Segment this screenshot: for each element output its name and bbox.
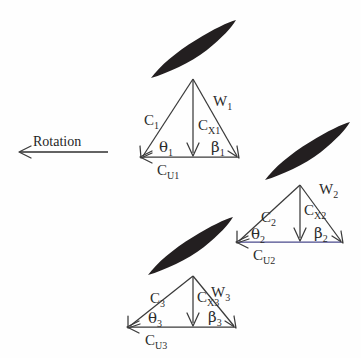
svg-text:C3: C3 bbox=[150, 290, 165, 309]
svg-text:β3: β3 bbox=[208, 308, 222, 328]
svg-text:CU3: CU3 bbox=[145, 332, 167, 351]
svg-text:β2: β2 bbox=[314, 224, 328, 244]
svg-text:β1: β1 bbox=[211, 138, 225, 158]
svg-text:C2: C2 bbox=[261, 209, 276, 228]
label-CU2: CU2 bbox=[253, 247, 275, 266]
velocity-triangle-2: C2 W2 CX2 CU2 θ2 β2 bbox=[236, 181, 343, 266]
label-W1: W1 bbox=[213, 93, 232, 112]
label-C2: C2 bbox=[261, 209, 276, 228]
svg-text:θ3: θ3 bbox=[148, 309, 162, 329]
svg-text:W1: W1 bbox=[213, 93, 232, 112]
label-theta2: θ2 bbox=[251, 225, 265, 245]
svg-text:θ1: θ1 bbox=[159, 138, 173, 158]
svg-text:CU1: CU1 bbox=[157, 162, 179, 181]
blade-right bbox=[265, 122, 350, 180]
rotation-label: Rotation bbox=[33, 134, 81, 149]
label-CU1: CU1 bbox=[157, 162, 179, 181]
rotation-indicator: Rotation bbox=[19, 134, 108, 158]
label-W2: W2 bbox=[319, 181, 338, 200]
label-beta2: β2 bbox=[314, 224, 328, 244]
label-C1: C1 bbox=[144, 112, 159, 131]
svg-text:W2: W2 bbox=[319, 181, 338, 200]
label-theta3: θ3 bbox=[148, 309, 162, 329]
label-beta1: β1 bbox=[211, 138, 225, 158]
svg-text:CU2: CU2 bbox=[253, 247, 275, 266]
velocity-triangle-3: C3 W3 CX3 CU3 θ3 β3 bbox=[127, 276, 236, 351]
blade-upper bbox=[151, 20, 236, 78]
svg-text:C1: C1 bbox=[144, 112, 159, 131]
label-CU3: CU3 bbox=[145, 332, 167, 351]
velocity-triangle-1: C1 W1 CX1 CU1 θ1 β1 bbox=[140, 79, 239, 181]
label-C3: C3 bbox=[150, 290, 165, 309]
label-theta1: θ1 bbox=[159, 138, 173, 158]
svg-text:θ2: θ2 bbox=[251, 225, 265, 245]
blade-lower bbox=[148, 217, 233, 275]
label-beta3: β3 bbox=[208, 308, 222, 328]
velocity-triangle-diagram: Rotation C1 W1 CX1 bbox=[0, 0, 361, 358]
